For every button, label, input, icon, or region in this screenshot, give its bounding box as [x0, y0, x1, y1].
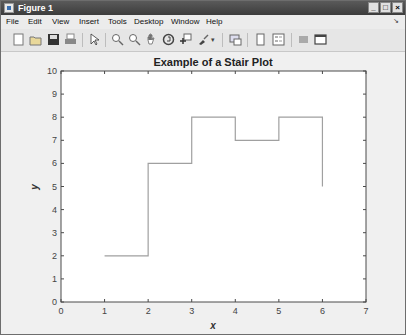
menu-desktop[interactable]: Desktop	[134, 17, 163, 26]
y-tick-label: 2	[52, 251, 57, 261]
show-plot-tools-icon[interactable]	[314, 33, 327, 46]
x-tick-label: 2	[146, 306, 151, 316]
menu-insert[interactable]: Insert	[79, 17, 99, 26]
y-tick-label: 4	[52, 205, 57, 215]
print-icon[interactable]	[64, 33, 77, 46]
link-plot-icon[interactable]	[229, 33, 242, 46]
close-button[interactable]: ×	[392, 2, 403, 13]
zoom-in-icon[interactable]	[111, 33, 124, 46]
menu-tools[interactable]: Tools	[108, 17, 127, 26]
x-axis-label: x	[209, 320, 216, 331]
y-tick-label: 1	[52, 274, 57, 284]
y-tick-label: 8	[52, 112, 57, 122]
menu-file[interactable]: File	[6, 17, 19, 26]
window-title: Figure 1	[18, 2, 53, 14]
menu-bar: File Edit View Insert Tools Desktop Wind…	[1, 15, 405, 29]
figure-canvas: 01234567012345678910 Example of a Stair …	[2, 52, 404, 334]
zoom-out-icon[interactable]	[128, 33, 141, 46]
y-tick-label: 6	[52, 158, 57, 168]
x-tick-label: 0	[58, 306, 63, 316]
open-file-icon[interactable]	[29, 33, 42, 46]
brush-dropdown-icon[interactable]: ▾	[209, 33, 217, 46]
menu-window[interactable]: Window	[171, 17, 199, 26]
x-tick-label: 1	[102, 306, 107, 316]
menu-view[interactable]: View	[52, 17, 69, 26]
minimize-button[interactable]: _	[368, 2, 379, 13]
toolbar-separator	[82, 33, 83, 47]
toolbar-separator	[291, 33, 292, 47]
y-tick-label: 7	[52, 135, 57, 145]
menu-edit[interactable]: Edit	[28, 17, 42, 26]
x-tick-label: 7	[363, 306, 368, 316]
y-tick-label: 5	[52, 182, 57, 192]
edit-plot-arrow-icon[interactable]	[88, 33, 101, 46]
colorbar-icon[interactable]	[254, 33, 267, 46]
y-tick-label: 0	[52, 297, 57, 307]
dock-arrow-icon[interactable]: ↘	[393, 17, 399, 25]
stair-plot: 01234567012345678910 Example of a Stair …	[2, 52, 404, 334]
new-figure-icon[interactable]	[12, 33, 25, 46]
data-cursor-icon[interactable]	[179, 33, 192, 46]
y-tick-label: 10	[47, 66, 57, 76]
save-icon[interactable]	[47, 33, 60, 46]
y-tick-label: 9	[52, 89, 57, 99]
matlab-figure-icon	[4, 3, 14, 13]
y-axis-label: y	[29, 184, 40, 191]
maximize-button[interactable]: □	[380, 2, 391, 13]
hide-plot-tools-icon[interactable]	[297, 33, 310, 46]
chart-title: Example of a Stair Plot	[153, 56, 273, 68]
rotate-3d-icon[interactable]	[162, 33, 175, 46]
menu-help[interactable]: Help	[206, 17, 222, 26]
y-tick-label: 3	[52, 228, 57, 238]
figure-window: Figure 1 _ □ × File Edit View Insert Too…	[0, 0, 406, 335]
figure-toolbar: ▾	[1, 29, 405, 52]
x-tick-label: 6	[320, 306, 325, 316]
toolbar-separator	[105, 33, 106, 47]
pan-hand-icon[interactable]	[145, 33, 158, 46]
x-tick-label: 3	[189, 306, 194, 316]
toolbar-separator	[222, 33, 223, 47]
x-tick-label: 5	[276, 306, 281, 316]
x-tick-label: 4	[233, 306, 238, 316]
toolbar-separator	[247, 33, 248, 47]
title-bar[interactable]: Figure 1 _ □ ×	[1, 1, 405, 15]
axes-background[interactable]	[61, 71, 366, 302]
legend-icon[interactable]	[272, 33, 285, 46]
